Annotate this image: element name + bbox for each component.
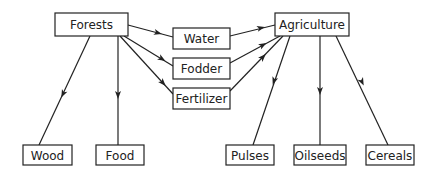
node-forests: Forests bbox=[55, 13, 128, 36]
cereals-label: Cereals bbox=[368, 149, 413, 163]
edge-fodder-to-agriculture bbox=[230, 36, 280, 63]
edge-agriculture-to-cereals bbox=[336, 36, 388, 145]
arrowhead-icon bbox=[258, 40, 268, 49]
edge-agriculture-to-pulses bbox=[253, 36, 290, 145]
food-label: Food bbox=[106, 149, 135, 163]
agriculture-label: Agriculture bbox=[279, 18, 345, 32]
node-cereals: Cereals bbox=[366, 145, 414, 165]
edge-forests-to-wood bbox=[39, 36, 90, 145]
node-agriculture: Agriculture bbox=[275, 13, 349, 36]
node-wood: Wood bbox=[23, 145, 72, 165]
node-food: Food bbox=[96, 145, 144, 165]
fertilizer-label: Fertilizer bbox=[176, 92, 228, 106]
forest-agriculture-diagram: Forests Water Fodder Fertilizer Agricult… bbox=[0, 0, 437, 175]
arrowhead-icon bbox=[153, 29, 162, 37]
forests-label: Forests bbox=[70, 18, 113, 32]
fodder-label: Fodder bbox=[181, 62, 222, 76]
edge-forests-to-water bbox=[128, 25, 173, 37]
edge-fertilizer-to-agriculture bbox=[230, 36, 283, 91]
node-pulses: Pulses bbox=[226, 145, 274, 165]
pulses-label: Pulses bbox=[231, 149, 269, 163]
node-oilseeds: Oilseeds bbox=[294, 145, 346, 165]
node-fodder: Fodder bbox=[173, 58, 230, 79]
arrowhead-icon bbox=[59, 89, 68, 99]
water-label: Water bbox=[184, 32, 220, 46]
arrowhead-icon bbox=[358, 77, 367, 87]
oilseeds-label: Oilseeds bbox=[295, 149, 346, 163]
node-fertilizer: Fertilizer bbox=[173, 88, 230, 109]
node-water: Water bbox=[173, 28, 230, 49]
edge-water-to-agriculture bbox=[230, 25, 275, 36]
edge-forests-to-fodder bbox=[124, 36, 173, 66]
wood-label: Wood bbox=[31, 149, 64, 163]
nodes-layer: Forests Water Fodder Fertilizer Agricult… bbox=[23, 13, 414, 165]
arrowhead-icon bbox=[157, 54, 167, 63]
